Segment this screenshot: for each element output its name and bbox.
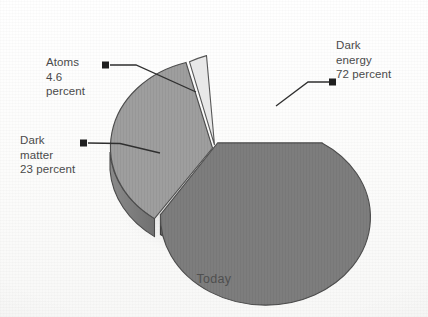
callout-label-dark-matter-line2: matter (20, 148, 75, 163)
callout-label-dark-energy-line2: energy (336, 53, 391, 68)
callout-label-atoms-line3: percent (46, 84, 85, 99)
callout-label-dark-energy-line3: 72 percent (336, 67, 391, 82)
callout-label-dark-matter-line3: 23 percent (20, 162, 75, 177)
callout-label-atoms-line2: 4.6 (46, 70, 85, 85)
callout-label-atoms: Atoms 4.6 percent (46, 55, 85, 99)
callout-label-dark-matter-line1: Dark (20, 133, 75, 148)
callout-label-dark-matter: Dark matter 23 percent (20, 133, 75, 177)
figure-caption: Today (0, 272, 428, 286)
callout-label-dark-energy-line1: Dark (336, 38, 391, 53)
callout-label-dark-energy: Dark energy 72 percent (336, 38, 391, 82)
callout-label-atoms-line1: Atoms (46, 55, 85, 70)
figure-canvas: Atoms 4.6 percent Dark matter 23 percent… (0, 0, 428, 317)
callout-leader-dark-energy (276, 79, 336, 107)
